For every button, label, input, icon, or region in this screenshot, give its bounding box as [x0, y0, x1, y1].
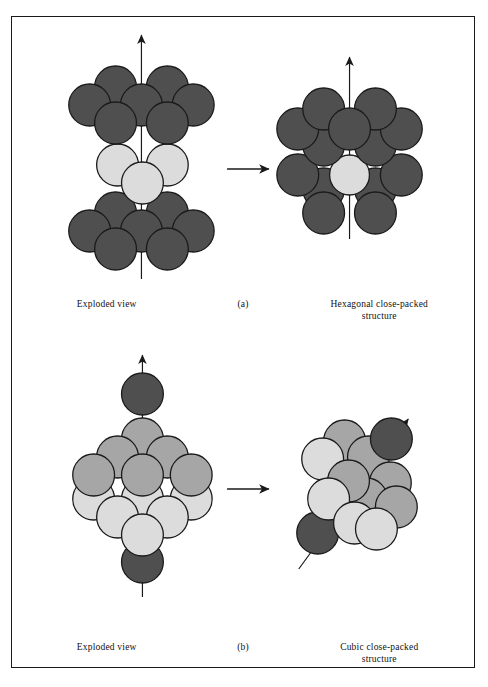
panel-b-stage — [12, 347, 474, 669]
caption-structure-b-line2: structure — [362, 654, 397, 664]
caption-structure-a-line1: Hexagonal close-packed — [331, 299, 429, 309]
panel-label-b: (b) — [201, 642, 284, 652]
panel-cubic-close-packed — [12, 347, 474, 669]
panel-a-stage — [12, 17, 474, 347]
panel-label-a: (a) — [201, 299, 284, 309]
caption-exploded-view-b: Exploded view — [12, 642, 201, 652]
caption-row-a: Exploded view (a) Hexagonal close-packed… — [12, 299, 474, 323]
ccp-assembled-cluster — [297, 418, 417, 569]
caption-exploded-view-a: Exploded view — [12, 299, 201, 309]
caption-structure-b: Cubic close-packed structure — [285, 642, 474, 666]
caption-structure-b-line1: Cubic close-packed — [340, 642, 418, 652]
hcp-diagram — [12, 17, 474, 347]
ccp-diagram — [12, 347, 474, 669]
figure-frame: Exploded view (a) Hexagonal close-packed… — [11, 16, 475, 668]
exploded-layer-B-medium — [73, 418, 212, 496]
caption-structure-a-line2: structure — [362, 311, 397, 321]
panel-hexagonal-close-packed: Exploded view (a) Hexagonal close-packed… — [12, 17, 474, 347]
hcp-assembled-cluster — [277, 57, 422, 239]
exploded-apex-sphere-top — [122, 373, 164, 415]
caption-row-b: Exploded view (b) Cubic close-packed str… — [12, 642, 474, 666]
caption-structure-a: Hexagonal close-packed structure — [285, 299, 474, 323]
